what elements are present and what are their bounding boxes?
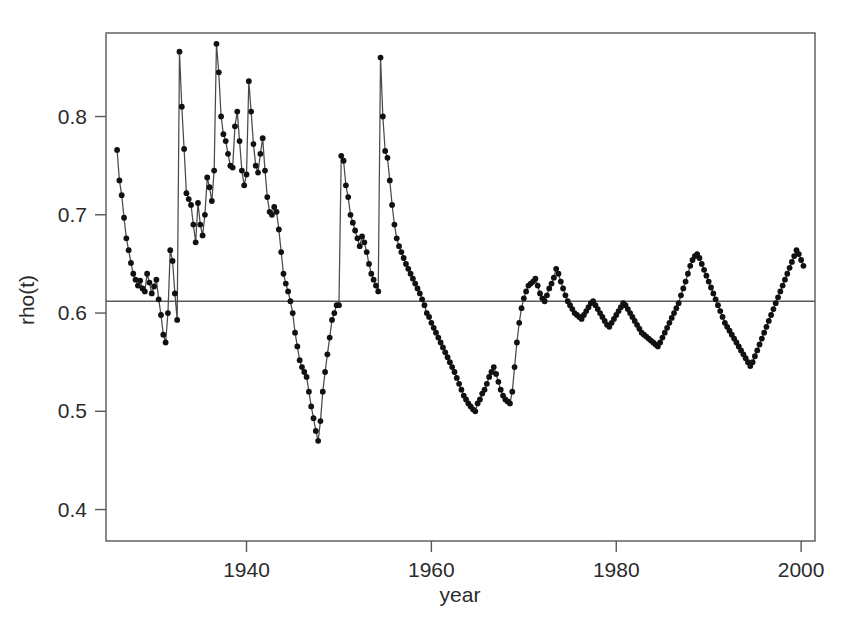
data-point: [160, 332, 166, 338]
data-point: [535, 283, 541, 289]
data-point: [523, 289, 529, 295]
data-series-group: [114, 41, 806, 444]
data-point: [417, 290, 423, 296]
data-point: [392, 222, 398, 228]
data-point: [338, 153, 344, 159]
data-point: [246, 78, 252, 84]
data-point: [683, 279, 689, 285]
data-point: [782, 277, 788, 283]
data-point: [174, 317, 180, 323]
data-point: [306, 389, 312, 395]
data-point: [551, 275, 557, 281]
data-point: [761, 330, 767, 336]
data-point: [787, 265, 793, 271]
data-point: [255, 170, 261, 176]
data-point: [327, 335, 333, 341]
data-point: [237, 138, 243, 144]
data-point: [251, 141, 257, 147]
data-point: [193, 239, 199, 245]
data-point: [352, 228, 358, 234]
data-point: [713, 296, 719, 302]
data-point: [239, 168, 245, 174]
data-point: [165, 310, 171, 316]
data-point: [216, 69, 222, 75]
data-point: [225, 151, 231, 157]
data-point: [459, 387, 465, 393]
data-point: [292, 330, 298, 336]
data-point: [486, 374, 492, 380]
data-point: [147, 280, 153, 286]
x-tick-label: 2000: [778, 558, 825, 581]
data-point: [560, 286, 566, 292]
data-point: [428, 320, 434, 326]
data-point: [454, 375, 460, 381]
data-point: [789, 259, 795, 265]
data-point: [752, 353, 758, 359]
data-point: [232, 123, 238, 129]
data-point: [304, 374, 310, 380]
data-point: [364, 249, 370, 255]
data-point: [253, 163, 259, 169]
data-point: [491, 364, 497, 370]
data-point: [329, 317, 335, 323]
data-point: [766, 318, 772, 324]
data-point: [775, 294, 781, 300]
data-point: [260, 135, 266, 141]
data-point: [493, 371, 499, 377]
data-point: [357, 243, 363, 249]
data-point: [435, 335, 441, 341]
data-point: [673, 305, 679, 311]
data-point: [313, 428, 319, 434]
data-point: [375, 289, 381, 295]
data-point: [563, 292, 569, 298]
data-point: [368, 271, 374, 277]
data-point: [149, 290, 155, 296]
data-point: [512, 364, 518, 370]
data-point: [209, 198, 215, 204]
data-point: [343, 182, 349, 188]
data-point: [385, 155, 391, 161]
data-point: [553, 266, 559, 272]
data-point: [114, 147, 120, 153]
data-point: [680, 286, 686, 292]
data-point: [710, 290, 716, 296]
y-axis-label: rho(t): [15, 275, 38, 325]
data-point: [278, 249, 284, 255]
y-tick-label: 0.4: [58, 498, 88, 521]
data-point: [532, 276, 538, 282]
data-point: [290, 310, 296, 316]
data-point: [156, 296, 162, 302]
data-point: [771, 306, 777, 312]
data-point: [780, 283, 786, 289]
y-tick-label: 0.6: [58, 301, 87, 324]
data-point: [380, 114, 386, 120]
data-point: [241, 182, 247, 188]
data-point: [472, 408, 478, 414]
x-tick-label: 1980: [593, 558, 640, 581]
data-point: [366, 261, 372, 267]
data-point: [415, 286, 421, 292]
data-point: [142, 289, 148, 295]
y-axis-ticks: [95, 117, 106, 510]
data-point: [387, 177, 393, 183]
y-tick-label: 0.8: [58, 105, 87, 128]
data-point: [764, 324, 770, 330]
data-point: [230, 165, 236, 171]
data-point: [750, 359, 756, 365]
data-point: [401, 255, 407, 261]
data-point: [318, 418, 324, 424]
data-point: [452, 369, 458, 375]
data-point: [179, 104, 185, 110]
data-point: [556, 271, 562, 277]
data-point: [311, 415, 317, 421]
series-points-rho: [114, 41, 806, 444]
data-point: [214, 41, 220, 47]
data-point: [341, 158, 347, 164]
data-point: [188, 202, 194, 208]
data-point: [687, 263, 693, 269]
chart-figure: 1940196019802000 0.40.50.60.70.8 year rh…: [0, 0, 843, 633]
data-point: [204, 175, 210, 181]
data-point: [144, 271, 150, 277]
data-point: [117, 177, 123, 183]
data-point: [190, 222, 196, 228]
